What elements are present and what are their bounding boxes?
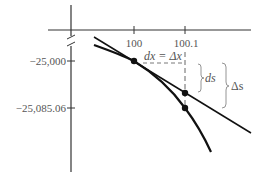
x-tick-label-100: 100 — [126, 37, 143, 49]
dx-label: dx = Δx — [144, 49, 182, 63]
axis-break-icon — [67, 35, 75, 46]
ds-brace-icon — [198, 64, 204, 92]
curve-point — [182, 105, 188, 111]
y-tick-label-25000: −25,000 — [30, 55, 67, 67]
tangent-line-point — [182, 90, 188, 96]
tangent-point — [131, 58, 137, 64]
ds-label: ds — [205, 71, 216, 85]
delta-s-label: Δs — [231, 79, 244, 93]
dx-label-text: dx = Δx — [144, 49, 182, 63]
diagram-canvas: 100 100.1 −25,000 −25,085.06 dx = Δx ds … — [0, 0, 258, 181]
delta-s-brace-icon — [222, 63, 229, 108]
y-tick-label-25085: −25,085.06 — [16, 102, 67, 114]
x-tick-label-100-1: 100.1 — [174, 37, 199, 49]
